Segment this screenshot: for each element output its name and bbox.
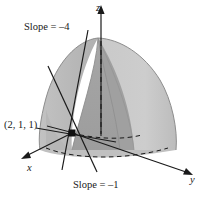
axis-label-z: z: [96, 3, 100, 14]
slope-label-top: Slope = –4: [24, 22, 70, 33]
axis-label-x: x: [27, 163, 32, 174]
slope-label-bottom: Slope = –1: [73, 180, 119, 191]
tangent-point-marker: [69, 130, 76, 137]
surface-base: [40, 150, 176, 157]
surface-tangent-diagram: Slope = –4 Slope = –1 (2, 1, 1) x y z: [0, 0, 202, 197]
axis-x-arrowhead: [21, 152, 31, 160]
axis-label-y: y: [190, 175, 195, 186]
point-coordinate-label: (2, 1, 1): [4, 120, 37, 131]
